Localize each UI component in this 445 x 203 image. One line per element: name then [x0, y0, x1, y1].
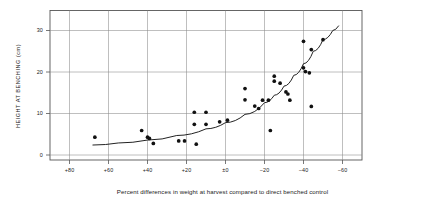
data-point	[177, 139, 181, 143]
x-tick-label-0: ±0	[211, 167, 241, 173]
data-point-group	[93, 38, 325, 146]
plot-frame	[50, 11, 362, 161]
y-tick-label-20: 20	[25, 69, 43, 75]
y-axis-title: HEIGHT AT BENCHING (cm)	[15, 31, 21, 141]
data-point	[148, 137, 152, 141]
plot-border	[50, 11, 362, 161]
data-point	[218, 120, 222, 124]
data-point	[243, 87, 247, 91]
data-point	[192, 110, 196, 114]
y-tick-label-30: 30	[25, 27, 43, 33]
data-point	[152, 142, 156, 146]
y-axis-tick-marks	[46, 31, 50, 156]
data-point	[243, 98, 247, 102]
data-point	[286, 92, 290, 96]
data-point	[308, 71, 312, 75]
data-point	[321, 38, 325, 42]
data-point	[194, 142, 198, 146]
vertical-gridlines	[70, 11, 343, 161]
data-point	[309, 48, 313, 52]
data-point	[302, 39, 306, 43]
data-point	[183, 139, 187, 143]
data-point	[267, 98, 271, 102]
x-tick-label--40: −40	[289, 167, 319, 173]
x-axis-caption: Percent differences in weight at harvest…	[0, 188, 445, 195]
trend-line	[93, 26, 339, 145]
x-tick-label-40: +40	[133, 167, 163, 173]
x-tick-label--20: −20	[250, 167, 280, 173]
data-point	[269, 129, 273, 133]
data-point	[253, 104, 257, 108]
data-point	[272, 74, 276, 78]
x-tick-label-60: +60	[94, 167, 124, 173]
data-point	[204, 122, 208, 126]
data-point	[140, 129, 144, 133]
x-axis-tick-marks	[70, 160, 343, 164]
data-point	[257, 107, 261, 111]
data-point	[304, 70, 308, 74]
data-point	[302, 66, 306, 70]
data-point	[309, 105, 313, 109]
x-tick-label-20: +20	[172, 167, 202, 173]
y-tick-label-0: 0	[25, 152, 43, 158]
x-tick-label-80: +80	[55, 167, 85, 173]
scatter-plot-figure: 0102030 +80+60+40+20±0−20−40−60 HEIGHT A…	[0, 0, 445, 203]
chart-page: 0102030 +80+60+40+20±0−20−40−60 HEIGHT A…	[0, 0, 445, 203]
data-point	[226, 118, 230, 122]
y-tick-label-10: 10	[25, 110, 43, 116]
horizontal-gridlines	[50, 31, 362, 156]
data-point	[93, 135, 97, 139]
data-point	[261, 98, 265, 102]
data-point	[272, 79, 276, 83]
data-point	[204, 110, 208, 114]
x-tick-label--60: −60	[328, 167, 358, 173]
data-point	[278, 81, 282, 85]
data-point	[288, 98, 292, 102]
data-point	[192, 122, 196, 126]
